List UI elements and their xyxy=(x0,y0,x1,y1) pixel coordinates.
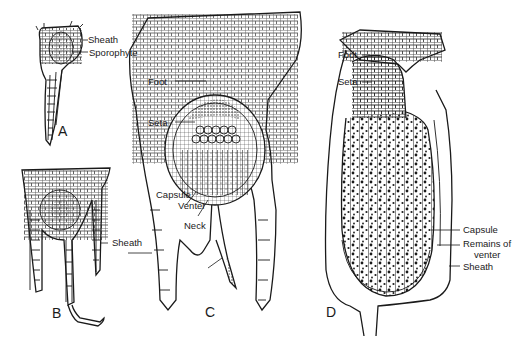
label-c-foot: Foot xyxy=(148,77,167,87)
panel-letter-a: A xyxy=(58,124,67,138)
figure-drawing xyxy=(0,0,528,339)
panel-letter-b: B xyxy=(52,306,61,320)
panel-c-drawing xyxy=(128,12,301,310)
panel-b-drawing xyxy=(22,168,110,326)
panel-letter-c: C xyxy=(205,305,215,319)
label-c-capsule: Capsule xyxy=(156,190,191,200)
label-d-foot: Foot xyxy=(338,50,357,60)
panel-letter-d: D xyxy=(326,305,336,319)
label-d-capsule: Capsule xyxy=(463,225,498,235)
label-c-neck: Neck xyxy=(184,221,206,231)
label-d-remains-of-venter-line2: venter xyxy=(474,250,500,260)
label-a-sheath: Sheath xyxy=(88,35,118,45)
label-d-remains-of-venter-line1: Remains of xyxy=(463,239,511,249)
label-d-sheath: Sheath xyxy=(463,262,493,272)
label-a-sporophyte: Sporophyte xyxy=(89,48,138,58)
botanical-figure: Sheath Sporophyte A Sheath B Foot Seta C… xyxy=(0,0,528,339)
label-c-seta: Seta xyxy=(148,118,168,128)
label-b-sheath: Sheath xyxy=(112,238,142,248)
label-d-seta: Seta xyxy=(338,77,358,87)
label-c-venter: Venter xyxy=(178,201,205,211)
